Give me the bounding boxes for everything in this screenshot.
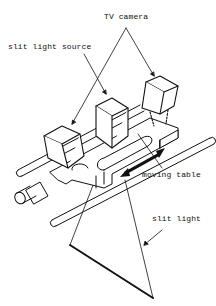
diagram-root: TV camera slit light source moving table…: [0, 0, 216, 306]
label-slit-light-source: slit light source: [8, 42, 91, 51]
label-moving-table: moving table: [142, 170, 201, 179]
motor: [13, 182, 48, 206]
label-slit-light: slit light: [152, 214, 201, 223]
tv-camera-right: [142, 76, 178, 126]
label-tv-camera: TV camera: [104, 12, 148, 21]
